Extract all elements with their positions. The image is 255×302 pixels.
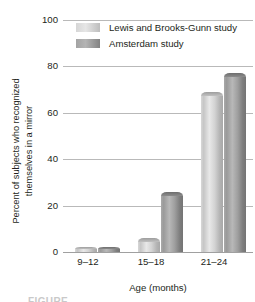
bar-body xyxy=(161,196,183,252)
y-tick-label-20: 20 xyxy=(18,201,58,211)
bar-body xyxy=(98,249,120,252)
x-tick-label-21-24: 21–24 xyxy=(184,256,244,267)
bar-body xyxy=(138,242,160,252)
y-axis-title: Percent of subjects who recognized thems… xyxy=(0,44,46,258)
y-tick-label-80: 80 xyxy=(18,61,58,71)
x-tick-label-15-18: 15–18 xyxy=(121,256,181,267)
bar-body xyxy=(201,96,223,252)
y-tick-label-40: 40 xyxy=(18,154,58,164)
legend-item-amsterdam: Amsterdam study xyxy=(76,37,251,51)
bar-15-18-lewis xyxy=(138,238,160,252)
y-axis-title-line-2: themselves in a mirror xyxy=(23,44,36,258)
y-tick-label-60: 60 xyxy=(18,108,58,118)
x-tick-label-9-12: 9–12 xyxy=(58,256,118,267)
figure-container: Percent of subjects who recognized thems… xyxy=(0,0,255,302)
y-axis-title-line-1: Percent of subjects who recognized xyxy=(10,44,23,258)
legend-label-lewis: Lewis and Brooks-Gunn study xyxy=(109,21,237,34)
y-tick-label-100: 100 xyxy=(18,15,58,25)
legend-swatch-icon-lewis xyxy=(76,23,100,32)
bar-body xyxy=(75,249,97,252)
legend-label-amsterdam: Amsterdam study xyxy=(109,37,184,50)
x-axis-line xyxy=(63,252,253,253)
gridline-80 xyxy=(63,66,253,67)
bar-body xyxy=(224,77,246,252)
bar-21-24-lewis xyxy=(201,92,223,252)
bar-15-18-amsterdam xyxy=(161,192,183,252)
legend-item-lewis: Lewis and Brooks-Gunn study xyxy=(76,21,251,35)
figure-caption: FIGURE xyxy=(28,296,68,302)
x-axis-title: Age (months) xyxy=(63,282,253,293)
legend: Lewis and Brooks-Gunn study Amsterdam st… xyxy=(76,21,251,53)
bar-9-12-lewis xyxy=(75,247,97,252)
plot-area: 100 80 60 40 20 0 xyxy=(63,20,253,252)
legend-swatch-icon-amsterdam xyxy=(76,39,100,48)
bar-21-24-amsterdam xyxy=(224,73,246,252)
bar-9-12-amsterdam xyxy=(98,247,120,252)
y-tick-label-0: 0 xyxy=(18,247,58,257)
